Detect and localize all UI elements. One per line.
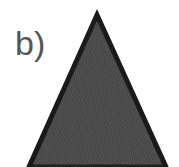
- figure-panel: b): [0, 0, 179, 167]
- triangle-shape-icon: [0, 0, 179, 167]
- triangle-polygon: [29, 15, 166, 167]
